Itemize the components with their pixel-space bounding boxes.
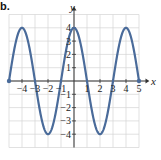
y-tick-label: −1 [60, 89, 71, 100]
x-tick-label: −2 [43, 83, 54, 94]
x-tick-label: −4 [17, 83, 28, 94]
y-tick-label: −3 [60, 115, 71, 126]
y-tick-label: −2 [60, 102, 71, 113]
x-axis-label: x [150, 75, 156, 87]
y-tick-label: 1 [66, 62, 71, 73]
x-tick-label: 2 [98, 83, 103, 94]
sine-graph: −4−3−2−1123454321−1−2−3−4 b. x y [0, 0, 161, 160]
x-tick-label: 4 [124, 83, 129, 94]
x-tick-label: 5 [137, 83, 142, 94]
x-tick-label: −3 [30, 83, 41, 94]
problem-label: b. [0, 0, 10, 12]
x-tick-label: 1 [85, 83, 90, 94]
y-tick-label: 3 [66, 36, 71, 47]
y-tick-label: −4 [60, 129, 71, 140]
y-axis-label: y [69, 1, 75, 13]
y-tick-label: 2 [66, 49, 71, 60]
x-tick-label: 3 [111, 83, 116, 94]
y-tick-label: 4 [66, 22, 71, 33]
